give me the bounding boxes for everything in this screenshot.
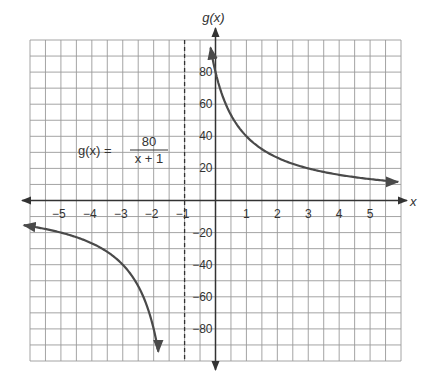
y-tick-label: 40	[199, 129, 213, 143]
y-tick-label: −60	[192, 290, 213, 304]
equation-denominator: x + 1	[135, 151, 164, 166]
equation-lhs: g(x) =	[78, 143, 112, 158]
x-tick-label: −2	[145, 207, 159, 221]
y-tick-label: 80	[199, 65, 213, 79]
y-tick-label: −20	[192, 226, 213, 240]
y-tick-label: −40	[192, 258, 213, 272]
y-tick-label: 60	[199, 97, 213, 111]
x-axis-label: x	[409, 194, 417, 209]
x-tick-label: 4	[336, 207, 343, 221]
function-graph: −5−4−3−2−11234580604020−20−40−60−80 x g(…	[0, 0, 436, 383]
axes	[22, 28, 407, 370]
x-tick-label: 5	[367, 207, 374, 221]
y-tick-label: −80	[192, 322, 213, 336]
x-tick-label: −1	[176, 207, 190, 221]
x-tick-label: −4	[83, 207, 97, 221]
x-tick-label: 1	[243, 207, 250, 221]
equation-numerator: 80	[142, 134, 156, 149]
x-tick-label: −5	[52, 207, 66, 221]
x-tick-label: 3	[305, 207, 312, 221]
x-tick-label: 2	[274, 207, 281, 221]
y-tick-label: 20	[199, 161, 213, 175]
y-axis-label: g(x)	[202, 10, 224, 25]
function-curves	[24, 48, 398, 352]
x-tick-label: −3	[114, 207, 128, 221]
